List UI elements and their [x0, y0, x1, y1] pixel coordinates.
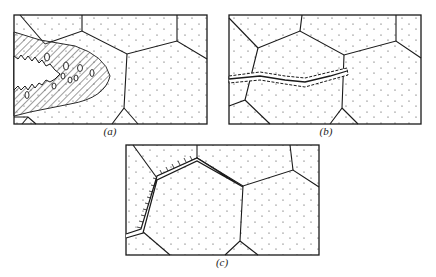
- panel-a: [14, 15, 207, 124]
- panel-label-c: (c): [216, 256, 228, 268]
- panel-c: [126, 145, 319, 255]
- diagram-canvas: [0, 0, 436, 277]
- panel-label-b: (b): [320, 125, 333, 137]
- panel-label-a: (a): [104, 125, 117, 137]
- panel-b: [229, 15, 421, 124]
